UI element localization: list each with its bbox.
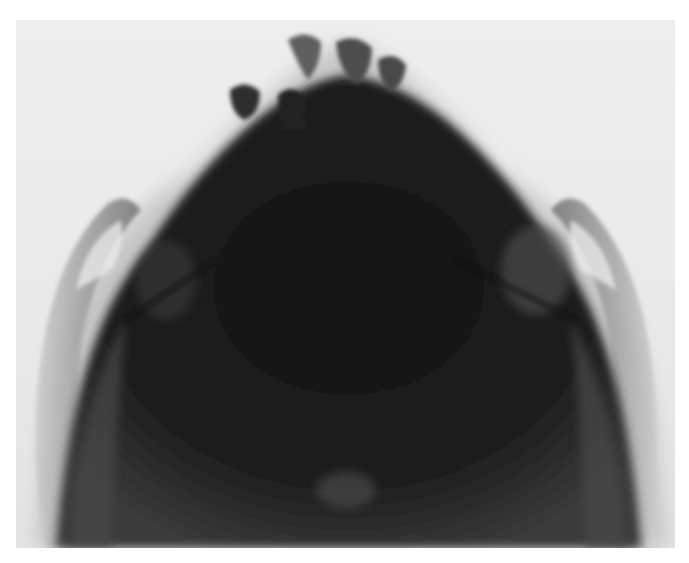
skull-radiograph bbox=[16, 20, 675, 548]
vertebra-shadow bbox=[316, 472, 376, 508]
radiograph-film bbox=[16, 20, 675, 548]
